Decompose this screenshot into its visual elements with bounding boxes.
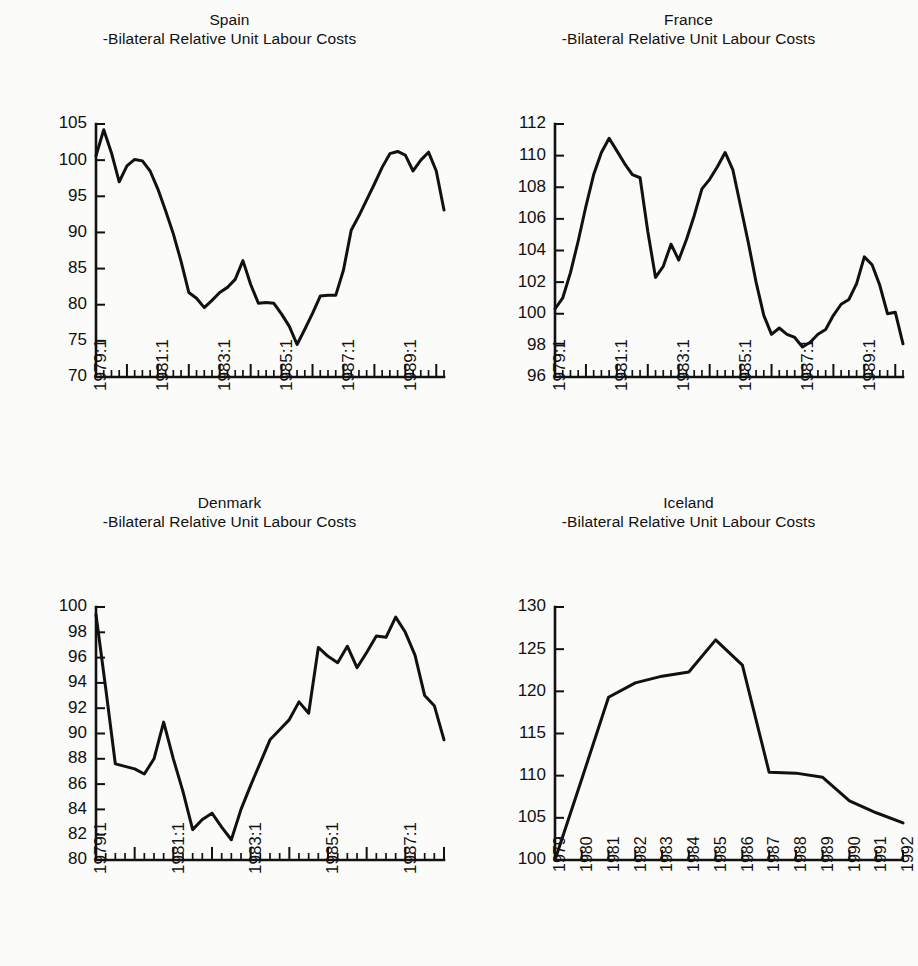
y-tick-label: 98 xyxy=(68,622,87,641)
figure-grid: Spain -Bilateral Relative Unit Labour Co… xyxy=(0,0,918,966)
x-tick-label: 1980 xyxy=(578,836,595,872)
x-tick-label: 1987:1 xyxy=(401,822,420,874)
y-tick-label: 84 xyxy=(68,799,87,818)
y-tick-label: 110 xyxy=(519,145,546,164)
data-series-line xyxy=(555,640,903,860)
y-tick-label: 130 xyxy=(518,596,546,615)
y-tick-label: 92 xyxy=(68,698,87,717)
panel-france: France -Bilateral Relative Unit Labour C… xyxy=(459,0,918,483)
x-tick-label: 1984 xyxy=(685,836,702,872)
x-tick-label: 1979:1 xyxy=(91,339,110,391)
y-tick-label: 86 xyxy=(68,774,87,793)
x-tick-label: 1981:1 xyxy=(153,339,172,391)
data-series-line xyxy=(555,138,903,347)
x-tick-label: 1985 xyxy=(712,836,729,872)
y-tick-label: 100 xyxy=(59,596,87,615)
y-tick-label: 120 xyxy=(518,681,546,700)
y-tick-label: 80 xyxy=(68,294,87,313)
y-tick-label: 105 xyxy=(59,113,87,132)
x-tick-label: 1985:1 xyxy=(277,339,296,391)
data-series-line xyxy=(96,615,444,840)
chart-svg-spain: 7075808590951001051979:11981:11983:11985… xyxy=(0,0,459,483)
x-tick-label: 1991 xyxy=(872,836,889,872)
axis-lines xyxy=(555,607,903,860)
y-tick-label: 96 xyxy=(68,647,87,666)
y-tick-label: 75 xyxy=(68,330,87,349)
y-tick-label: 115 xyxy=(519,723,546,742)
plot-area-denmark: 808284868890929496981001979:11981:11983:… xyxy=(0,483,459,966)
plot-area-spain: 7075808590951001051979:11981:11983:11985… xyxy=(0,0,459,483)
x-tick-label: 1983:1 xyxy=(674,339,693,391)
y-tick-label: 95 xyxy=(68,186,87,205)
y-tick-label: 100 xyxy=(518,849,546,868)
x-tick-label: 1981:1 xyxy=(169,822,188,874)
axis-lines xyxy=(96,607,444,860)
y-tick-label: 90 xyxy=(68,222,87,241)
x-tick-label: 1989:1 xyxy=(401,339,420,391)
panel-spain: Spain -Bilateral Relative Unit Labour Co… xyxy=(0,0,459,483)
x-tick-label: 1981 xyxy=(605,836,622,872)
y-tick-label: 108 xyxy=(518,177,546,196)
panel-iceland: Iceland -Bilateral Relative Unit Labour … xyxy=(459,483,918,966)
x-tick-label: 1989 xyxy=(819,836,836,872)
x-tick-label: 1990 xyxy=(846,836,863,872)
chart-svg-iceland: 1001051101151201251301979198019811982198… xyxy=(459,483,918,966)
y-tick-label: 105 xyxy=(518,807,546,826)
y-tick-label: 80 xyxy=(68,849,87,868)
y-tick-label: 88 xyxy=(68,748,87,767)
axis-lines xyxy=(96,124,444,377)
y-tick-label: 82 xyxy=(68,824,87,843)
x-tick-label: 1987:1 xyxy=(339,339,358,391)
y-tick-label: 90 xyxy=(68,723,87,742)
y-tick-label: 98 xyxy=(527,335,546,354)
y-tick-label: 106 xyxy=(518,208,546,227)
x-tick-label: 1983:1 xyxy=(246,822,265,874)
x-tick-label: 1983:1 xyxy=(215,339,234,391)
x-tick-label: 1981:1 xyxy=(612,339,631,391)
x-tick-label: 1985:1 xyxy=(323,822,342,874)
y-tick-label: 102 xyxy=(518,272,546,291)
y-tick-label: 112 xyxy=(519,113,546,132)
x-tick-label: 1988 xyxy=(792,836,809,872)
y-tick-label: 94 xyxy=(68,672,87,691)
y-tick-label: 96 xyxy=(527,366,546,385)
y-tick-label: 110 xyxy=(519,765,546,784)
y-tick-label: 70 xyxy=(68,366,87,385)
plot-area-france: 96981001021041061081101121979:11981:1198… xyxy=(459,0,918,483)
y-tick-label: 104 xyxy=(518,240,546,259)
plot-area-iceland: 1001051101151201251301979198019811982198… xyxy=(459,483,918,966)
x-tick-label: 1987 xyxy=(765,836,782,872)
chart-svg-france: 96981001021041061081101121979:11981:1198… xyxy=(459,0,918,483)
chart-svg-denmark: 808284868890929496981001979:11981:11983:… xyxy=(0,483,459,966)
x-tick-label: 1986 xyxy=(739,836,756,872)
y-tick-label: 100 xyxy=(59,150,87,169)
x-tick-label: 1979:1 xyxy=(91,822,110,874)
x-tick-label: 1982 xyxy=(632,836,649,872)
panel-denmark: Denmark -Bilateral Relative Unit Labour … xyxy=(0,483,459,966)
x-tick-label: 1992 xyxy=(899,836,916,872)
x-tick-label: 1979:1 xyxy=(550,339,569,391)
y-tick-label: 85 xyxy=(68,258,87,277)
x-tick-label: 1983 xyxy=(658,836,675,872)
y-tick-label: 125 xyxy=(518,639,546,658)
data-series-line xyxy=(96,130,444,345)
x-tick-label: 1989:1 xyxy=(860,339,879,391)
x-tick-label: 1985:1 xyxy=(736,339,755,391)
y-tick-label: 100 xyxy=(518,303,546,322)
